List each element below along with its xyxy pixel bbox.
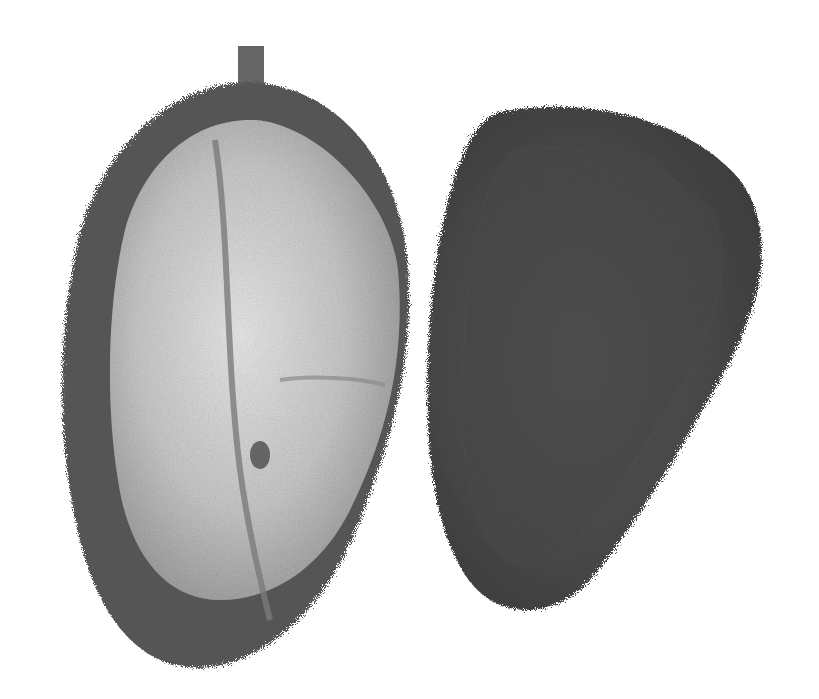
husk-texture [462, 148, 723, 565]
opened-durian [62, 46, 409, 668]
durian-illustration [0, 0, 819, 699]
flesh-dark-spot [250, 441, 270, 469]
whole-durian [427, 107, 761, 610]
durian-photo: Grayscale photograph of two durian fruit… [0, 0, 819, 699]
